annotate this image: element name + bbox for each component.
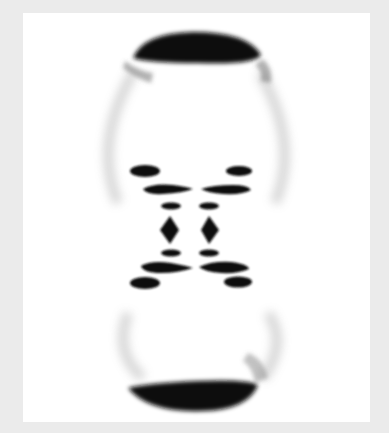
cross-spots: [130, 165, 252, 289]
top-arc: [123, 32, 271, 83]
bottom-arc: [128, 353, 268, 411]
haze-arcs: [108, 73, 284, 378]
diffraction-panel: [23, 13, 370, 422]
photo-frame: [0, 0, 389, 433]
diffraction-pattern: [23, 13, 370, 422]
